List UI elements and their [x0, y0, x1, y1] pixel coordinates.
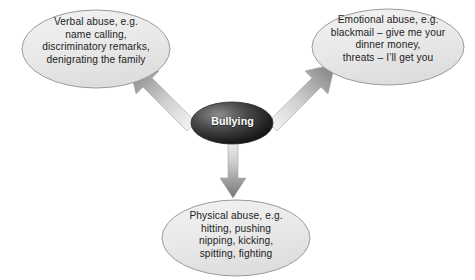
- node-bullying: [191, 102, 273, 144]
- diagram-canvas: Verbal abuse, e.g. name calling, discrim…: [0, 0, 475, 280]
- node-physical-abuse: [162, 200, 310, 276]
- node-emotional-abuse: [312, 9, 464, 85]
- node-verbal-abuse: [22, 10, 170, 88]
- concept-map-graphic: [0, 0, 475, 280]
- arrow-to-emotional: [268, 64, 335, 131]
